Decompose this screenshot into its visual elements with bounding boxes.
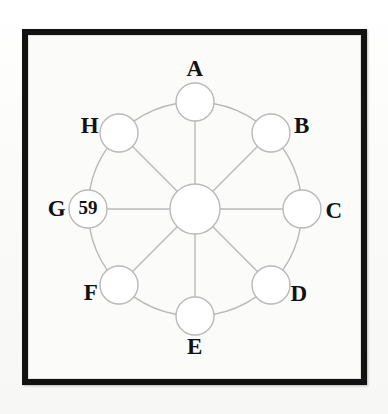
node-label-b: B bbox=[294, 113, 310, 138]
ring-edge-h-a bbox=[134, 104, 175, 121]
figure-page: ABCDEF59GH bbox=[0, 0, 388, 414]
wheel-graph-canvas: ABCDEF59GH bbox=[0, 0, 388, 414]
graph-node-d[interactable] bbox=[252, 266, 290, 304]
ring-edge-d-e bbox=[214, 297, 255, 314]
node-label-a: A bbox=[186, 56, 203, 81]
node-label-e: E bbox=[187, 334, 203, 359]
graph-node-hub[interactable] bbox=[170, 184, 220, 234]
spoke-edge-hub-d bbox=[213, 227, 257, 271]
ring-edge-c-d bbox=[283, 228, 300, 269]
graph-node-f[interactable] bbox=[100, 266, 138, 304]
graph-node-e[interactable] bbox=[176, 297, 214, 335]
node-value-g: 59 bbox=[79, 197, 98, 218]
graph-node-c[interactable] bbox=[283, 190, 321, 228]
spoke-edge-hub-b bbox=[213, 147, 257, 191]
graph-nodes-group bbox=[69, 83, 321, 335]
ring-edge-e-f bbox=[134, 297, 175, 314]
spoke-edge-hub-f bbox=[133, 227, 177, 271]
ring-edge-g-h bbox=[90, 148, 107, 189]
graph-node-a[interactable] bbox=[176, 83, 214, 121]
graph-node-h[interactable] bbox=[100, 114, 138, 152]
node-label-f: F bbox=[84, 280, 99, 305]
node-label-h: H bbox=[81, 113, 99, 138]
node-label-d: D bbox=[290, 281, 307, 306]
node-label-g: G bbox=[48, 196, 66, 221]
graph-node-b[interactable] bbox=[252, 114, 290, 152]
ring-edge-a-b bbox=[214, 104, 255, 121]
spoke-edge-hub-h bbox=[133, 147, 177, 191]
ring-edge-b-c bbox=[283, 148, 300, 189]
ring-edge-f-g bbox=[90, 228, 107, 269]
node-label-c: C bbox=[325, 198, 342, 223]
